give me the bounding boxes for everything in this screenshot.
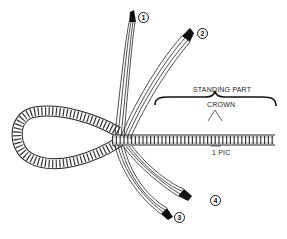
strand-3 [115, 146, 167, 214]
strand-marker-4: 4 [210, 195, 221, 206]
strand-marker-1: 1 [138, 12, 149, 23]
strand-marker-2: 2 [197, 28, 208, 39]
rope-splice-diagram: STANDING PART CROWN 1 PIC 1 2 3 4 [0, 0, 287, 239]
strand-4-tip [178, 189, 192, 201]
strand-4 [123, 146, 184, 196]
pic-label: 1 PIC [212, 149, 231, 156]
diagram-drawing [0, 0, 287, 239]
standing-part-label: STANDING PART [193, 86, 251, 93]
strand-marker-3: 3 [174, 212, 185, 223]
crown-pointer [208, 110, 222, 121]
strand-1-tip [129, 10, 136, 22]
rope-standing-part [112, 137, 275, 143]
crown-label: CROWN [207, 101, 235, 108]
strand-3-tip [161, 208, 173, 220]
rope-eye-loop [17, 111, 122, 164]
